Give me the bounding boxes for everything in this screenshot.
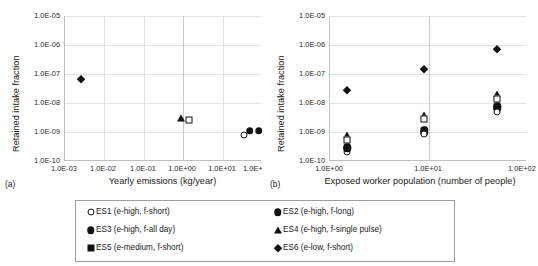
data-point-es1: [421, 131, 428, 138]
panel-a-x-tick-0: 1.0E-03: [46, 165, 82, 173]
panel-b-x-tick-0: 1.0E+00: [311, 165, 347, 173]
panel-a-y-tick-3: 1.0E-08: [14, 99, 60, 107]
legend-item-es4: ES4 (e-high, f-single pulse): [272, 225, 382, 235]
panel-a-x-tick-4: 1.0E+01: [204, 165, 240, 173]
data-point-es6: [493, 45, 501, 53]
data-point-es2: [344, 145, 352, 153]
data-point-es6: [420, 65, 428, 73]
panel-a-x-tick-3: 1.0E+00: [164, 165, 200, 173]
legend-item-es1: ES1 (e-high, f-short): [85, 207, 170, 217]
gridline-horizontal: [65, 16, 261, 17]
panel-a-y-tick-4: 1.0E-09: [14, 128, 60, 136]
gridline-vertical: [183, 16, 184, 160]
panel-b-y-tick-1: 1.0E-06: [279, 41, 325, 49]
panel-a-plot-area: [64, 16, 261, 161]
circle-open-icon: [85, 207, 96, 217]
data-point-es6: [77, 75, 85, 83]
legend-item-label: ES5 (e-medium, f-short): [96, 243, 183, 253]
data-point-es4: [177, 114, 185, 121]
data-point-es1: [494, 108, 501, 115]
gridline-vertical: [429, 16, 430, 160]
gridline-horizontal: [65, 74, 261, 75]
panel-b-y-tick-3: 1.0E-08: [279, 99, 325, 107]
panel-b-y-tick-4: 1.0E-09: [279, 128, 325, 136]
panel-b-x-tick-1: 1.0E+01: [410, 165, 446, 173]
legend-item-es5: ES5 (e-medium, f-short): [85, 243, 183, 253]
gridline-vertical: [104, 16, 105, 160]
circle-fill-icon: [272, 207, 283, 217]
legend-item-es2: ES2 (e-high, f-long): [272, 207, 354, 217]
panel-b-x-axis-title: Exposed worker population (number of peo…: [305, 176, 535, 187]
panel-a-x-axis-title: Yearly emissions (kg/year): [55, 176, 270, 187]
legend-item-label: ES6 (e-low, f-short): [283, 243, 353, 253]
gridline-horizontal: [65, 103, 261, 104]
legend: ES1 (e-high, f-short) ES3 (e-high, f-all…: [75, 200, 455, 262]
square-fill-icon: [85, 243, 96, 253]
legend-item-es3: ES3 (e-high, f-all day): [85, 225, 175, 235]
panel-a-x-tick-2: 1.0E-01: [125, 165, 161, 173]
diamond-fill-icon: [272, 243, 283, 253]
panel-a-label: (a): [5, 180, 15, 189]
data-point-es6: [343, 86, 351, 94]
gridline-horizontal: [65, 45, 261, 46]
data-point-es5: [421, 116, 428, 123]
legend-item-label: ES3 (e-high, f-all day): [96, 225, 175, 235]
legend-item-es6: ES6 (e-low, f-short): [272, 243, 353, 253]
triangle-fill-icon: [272, 225, 283, 235]
panel-b-y-tick-2: 1.0E-07: [279, 70, 325, 78]
panel-b-x-tick-2: 1.0E+02: [508, 165, 538, 173]
data-point-es5: [344, 137, 351, 144]
data-point-es3: [246, 127, 254, 135]
legend-item-label: ES1 (e-high, f-short): [96, 207, 170, 217]
circle-fill-icon: [85, 225, 96, 235]
panel-b-plot-area: [329, 16, 526, 161]
data-point-es5: [494, 95, 501, 102]
panel-b-y-tick-0: 1.0E-05: [279, 12, 325, 20]
gridline-horizontal: [65, 132, 261, 133]
panel-b: Retained intake fraction 1.0E-05 1.0E-06…: [265, 0, 531, 200]
legend-item-label: ES4 (e-high, f-single pulse): [283, 225, 382, 235]
gridline-vertical: [223, 16, 224, 160]
panel-a-y-tick-2: 1.0E-07: [14, 70, 60, 78]
gridline-vertical: [144, 16, 145, 160]
data-point-es2: [255, 127, 263, 135]
legend-item-label: ES2 (e-high, f-long): [283, 207, 354, 217]
panel-a: Retained intake fraction 1.0E-05 1.0E-06…: [0, 0, 266, 200]
data-point-es5: [186, 117, 193, 124]
panel-a-y-tick-1: 1.0E-06: [14, 41, 60, 49]
panel-b-label: (b): [270, 180, 280, 189]
panel-a-y-tick-0: 1.0E-05: [14, 12, 60, 20]
panel-a-x-tick-1: 1.0E-02: [85, 165, 121, 173]
